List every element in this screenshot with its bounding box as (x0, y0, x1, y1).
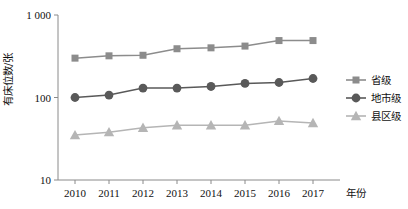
circle-marker-icon (309, 74, 318, 83)
x-axis-tick-label: 2011 (98, 187, 120, 199)
x-axis-tick-label: 2010 (64, 187, 87, 199)
square-marker-icon (208, 44, 215, 51)
legend-item[interactable]: 地市级 (346, 92, 402, 104)
x-axis-tick-label: 2014 (200, 187, 223, 199)
series-3 (70, 116, 318, 140)
square-marker-icon (353, 77, 360, 84)
series-1 (72, 37, 317, 62)
line-chart: 101001 000201020112012201320142015201620… (0, 0, 408, 209)
y-axis-tick-label: 1 000 (26, 9, 51, 21)
y-axis-tick-label: 10 (40, 174, 52, 186)
x-axis-tick-label: 2017 (302, 187, 325, 199)
square-marker-icon (174, 45, 181, 52)
square-marker-icon (310, 37, 317, 44)
square-marker-icon (276, 37, 283, 44)
x-axis-tick-label: 2012 (132, 187, 154, 199)
x-axis-tick-label: 2016 (268, 187, 291, 199)
square-marker-icon (242, 43, 249, 50)
legend: 省级地市级县区级 (346, 74, 402, 122)
chart-container: 101001 000201020112012201320142015201620… (0, 0, 408, 209)
square-marker-icon (140, 52, 147, 59)
series-2 (71, 74, 318, 102)
circle-marker-icon (352, 94, 361, 103)
circle-marker-icon (71, 93, 80, 102)
circle-marker-icon (173, 84, 182, 93)
circle-marker-icon (275, 78, 284, 87)
y-axis-title: 有床位数/张 (2, 52, 14, 107)
circle-marker-icon (241, 79, 250, 88)
circle-marker-icon (139, 84, 148, 93)
y-axis-tick-label: 100 (35, 92, 52, 104)
legend-item[interactable]: 省级 (346, 74, 392, 86)
legend-label: 地市级 (371, 92, 402, 104)
x-axis-tick-label: 2013 (166, 187, 189, 199)
legend-label: 省级 (371, 74, 392, 86)
x-axis-title: 年份 (346, 187, 367, 199)
legend-label: 县区级 (371, 110, 402, 122)
circle-marker-icon (105, 91, 114, 100)
legend-item[interactable]: 县区级 (346, 110, 402, 122)
circle-marker-icon (207, 82, 216, 91)
square-marker-icon (72, 55, 79, 62)
square-marker-icon (106, 52, 113, 59)
svg-text:有床位数/张: 有床位数/张 (2, 52, 14, 107)
x-axis-tick-label: 2015 (234, 187, 257, 199)
